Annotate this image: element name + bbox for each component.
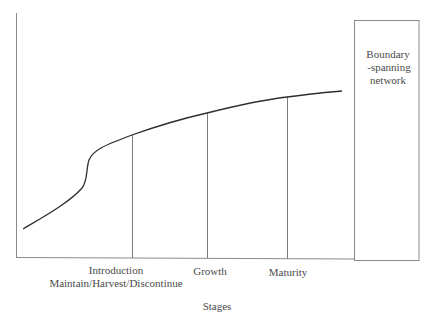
lifecycle-diagram: Boundary -spanning network Introduction … [0,0,433,329]
box-label-line-2: -spanning [367,61,411,73]
stage-label-growth: Growth [193,265,227,277]
stage-label-maintain-harvest-discontinue: Maintain/Harvest/Discontinue [49,277,182,289]
x-axis [16,258,354,260]
stage-label-introduction: Introduction [89,264,144,276]
stage-label-maturity: Maturity [269,266,308,278]
box-label-line-1: Boundary [366,48,410,60]
box-label-line-3: network [370,74,407,86]
x-axis-title: Stages [203,300,232,312]
lifecycle-curve [23,91,342,229]
